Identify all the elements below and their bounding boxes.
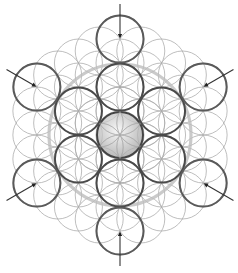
- arrow-upper-left: [7, 70, 37, 87]
- arrow-top: [118, 4, 122, 39]
- fruit-of-life-diagram: [0, 0, 238, 273]
- arrow-lower-left: [7, 183, 37, 200]
- arrow-bottom: [118, 232, 122, 267]
- arrow-lower-right: [204, 183, 234, 200]
- center-sphere-group: [75, 87, 165, 183]
- arrow-upper-right: [204, 70, 234, 87]
